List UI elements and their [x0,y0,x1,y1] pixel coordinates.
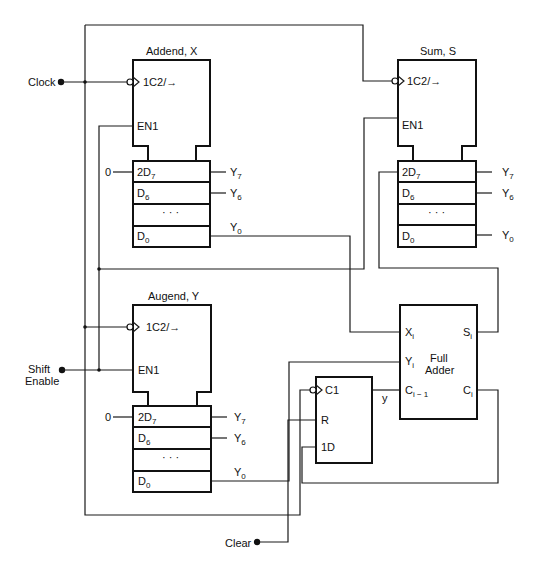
clear-terminal-icon [254,539,260,545]
full-adder-title-2: Adder [425,364,455,376]
svg-text:D0: D0 [137,230,150,245]
svg-text:D6: D6 [137,187,150,202]
full-adder: Xi Yi Ci − 1 Si Ci Full Adder [400,305,477,419]
clock-input: Clock [28,76,64,88]
svg-text:y: y [382,392,388,404]
svg-text:Si: Si [463,326,472,341]
svg-text:2D7: 2D7 [402,166,421,181]
sum-enable-label: EN1 [402,119,423,131]
augend-title: Augend, Y [148,290,200,302]
sum-title: Sum, S [420,45,456,57]
addend-serial-input: 0 [105,166,111,178]
svg-text:· · ·: · · · [428,206,445,218]
svg-text:· · ·: · · · [162,206,179,218]
addend-enable-label: EN1 [137,120,158,132]
svg-text:2D7: 2D7 [138,411,157,426]
clock-inversion-bubble-icon [310,387,316,393]
clock-label: Clock [28,76,56,88]
svg-text:2D7: 2D7 [137,166,156,181]
augend-serial-input: 0 [105,411,111,423]
svg-text:Ci: Ci [463,384,473,399]
svg-text:Y6: Y6 [502,187,514,202]
clock-inversion-bubble-icon [127,324,133,330]
augend-enable-label: EN1 [138,364,159,376]
svg-text:Y6: Y6 [234,432,246,447]
svg-text:Xi: Xi [405,326,414,341]
svg-text:Yi: Yi [405,355,414,370]
svg-text:D0: D0 [402,230,415,245]
augend-clock-label: 1C2/→ [146,321,180,333]
svg-text:C1: C1 [325,384,339,396]
svg-text:R: R [321,414,329,426]
addend-register: Addend, X 1C2/→ EN1 0 2D7 D6 · · · D0 Y7… [105,45,242,247]
addend-clock-label: 1C2/→ [143,76,177,88]
clear-input: Clear [225,537,260,549]
svg-text:1D: 1D [321,441,335,453]
full-adder-title-1: Full [430,352,448,364]
svg-text:Ci − 1: Ci − 1 [405,384,429,399]
clock-inversion-bubble-icon [392,78,398,84]
shift-enable-input: Shift Enable [25,363,65,387]
wires [61,25,498,542]
svg-text:Y7: Y7 [234,411,246,426]
clear-label: Clear [225,537,252,549]
addend-title: Addend, X [146,45,198,57]
shift-enable-label-line2: Enable [25,375,59,387]
svg-text:D0: D0 [138,475,151,490]
svg-text:Y6: Y6 [230,187,242,202]
svg-text:Y0: Y0 [234,466,246,481]
svg-text:Y0: Y0 [502,229,514,244]
svg-text:Y7: Y7 [502,166,514,181]
sum-clock-label: 1C2/→ [407,75,441,87]
svg-text:Y7: Y7 [230,166,242,181]
svg-text:Y0: Y0 [230,221,242,236]
sum-register: Sum, S 1C2/→ EN1 2D7 D6 · · · D0 Y7 Y6 Y… [392,45,514,247]
shift-enable-label-line1: Shift [28,363,50,375]
clock-inversion-bubble-icon [127,79,133,85]
svg-text:D6: D6 [138,432,151,447]
svg-text:· · ·: · · · [162,451,179,463]
serial-adder-diagram: Clock Shift Enable Clear [0,0,535,570]
svg-text:D6: D6 [402,187,415,202]
augend-register: Augend, Y 1C2/→ EN1 0 2D7 D6 · · · D0 Y7… [105,290,246,492]
